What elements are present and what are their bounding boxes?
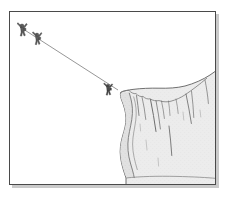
cliff-rope-illustration: Cliff Edge Rope Descent Line Illustratio…	[0, 0, 226, 197]
illustration-canvas: Cliff Edge Rope Descent Line Illustratio…	[0, 0, 226, 197]
